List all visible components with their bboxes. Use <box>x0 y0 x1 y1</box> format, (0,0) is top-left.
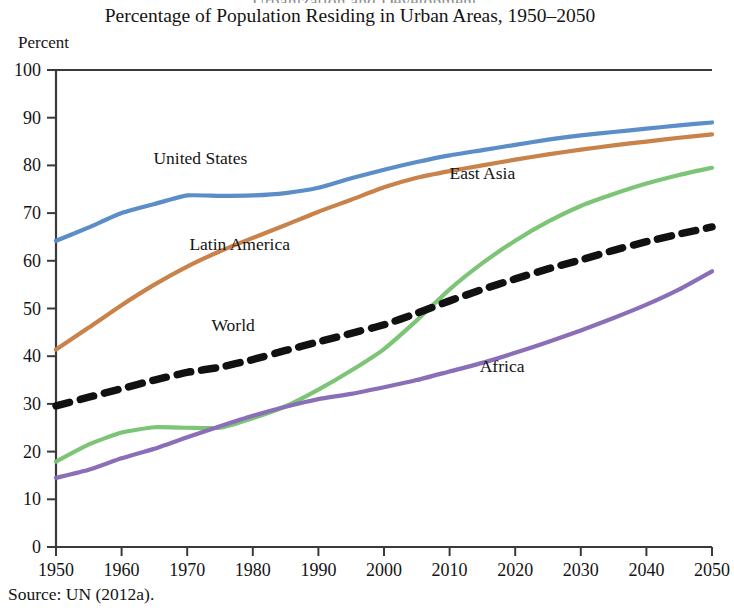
series-line-africa <box>56 271 712 478</box>
y-axis-tick-label: 10 <box>0 490 41 508</box>
y-axis-tick-label: 20 <box>0 443 41 461</box>
series-label-africa: Africa <box>480 356 525 376</box>
series-label-latin-america: Latin America <box>189 234 290 254</box>
x-axis-tick-label: 1990 <box>283 561 353 579</box>
y-axis-tick-label: 40 <box>0 347 41 365</box>
y-axis-tick-label: 0 <box>0 538 41 556</box>
y-axis-tick-label: 100 <box>0 61 41 79</box>
series-line-east-asia <box>56 168 712 462</box>
x-axis-tick-label: 2040 <box>611 561 681 579</box>
x-axis-tick-label: 1950 <box>21 561 91 579</box>
y-axis-tick-label: 90 <box>0 109 41 127</box>
x-axis-tick-label: 2000 <box>349 561 419 579</box>
series-label-united-states: United States <box>153 148 247 168</box>
x-axis-tick-label: 1960 <box>87 561 157 579</box>
series-line-united-states <box>56 122 712 240</box>
series-label-east-asia: East Asia <box>450 163 516 183</box>
x-axis-tick-label: 1980 <box>218 561 288 579</box>
y-axis-tick-label: 80 <box>0 156 41 174</box>
x-axis-tick-label: 1970 <box>152 561 222 579</box>
x-axis-tick-label: 2050 <box>677 561 734 579</box>
source-note: Source: UN (2012a). <box>8 583 154 605</box>
y-axis-tick-label: 50 <box>0 300 41 318</box>
y-axis-tick-label: 30 <box>0 395 41 413</box>
series-label-world: World <box>211 315 254 335</box>
x-axis-tick-label: 2020 <box>480 561 550 579</box>
x-axis-tick-label: 2030 <box>546 561 616 579</box>
y-axis-tick-label: 70 <box>0 204 41 222</box>
x-axis-tick-label: 2010 <box>415 561 485 579</box>
y-axis-tick-label: 60 <box>0 252 41 270</box>
